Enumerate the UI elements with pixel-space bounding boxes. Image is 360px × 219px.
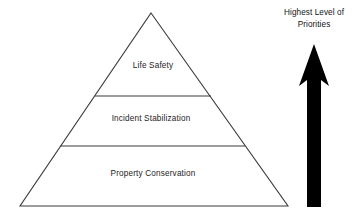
arrow-caption: Highest Level of Priorities [266, 7, 360, 31]
tier-label-incident-stabilization: Incident Stabilization [112, 114, 191, 123]
upward-arrow-icon [299, 44, 329, 207]
arrow-caption-line-1: Highest Level of [266, 7, 360, 19]
tier-label-life-safety: Life Safety [133, 61, 174, 70]
tier-label-property-conservation: Property Conservation [111, 169, 196, 178]
priorities-pyramid-graphic [0, 0, 360, 219]
figure-canvas: Life Safety Incident Stabilization Prope… [0, 0, 360, 219]
arrow-caption-line-2: Priorities [266, 19, 360, 31]
